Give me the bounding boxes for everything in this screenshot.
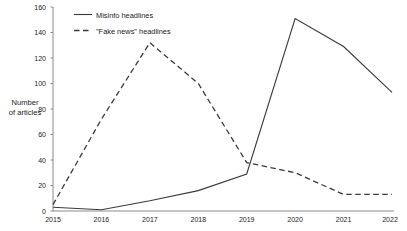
series-line-misinfo-headlines	[53, 18, 392, 209]
line-chart: Number of articles 160 140 120 100 80 60…	[0, 0, 407, 231]
series-line-fake-news-headlines	[53, 43, 392, 205]
plot-area	[0, 0, 407, 231]
